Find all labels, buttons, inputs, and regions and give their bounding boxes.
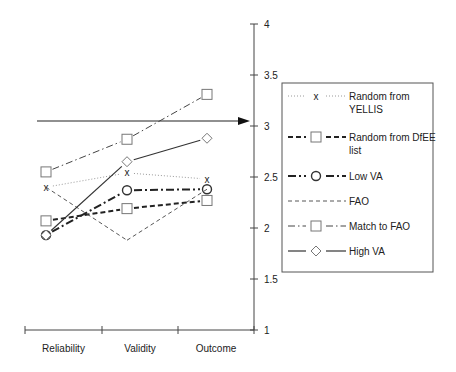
series-line-segment bbox=[52, 142, 120, 169]
data-point-square-icon bbox=[202, 89, 212, 99]
legend-label: list bbox=[349, 145, 361, 156]
legend-marker-square-icon bbox=[311, 221, 321, 231]
series-line-segment bbox=[134, 189, 200, 190]
series-line-segment bbox=[133, 98, 201, 136]
y-tick-label: 2 bbox=[264, 223, 270, 234]
legend-label: Random from bbox=[349, 91, 410, 102]
axes: 11.522.533.54ReliabilityValidityOutcome bbox=[25, 19, 278, 355]
legend-label: FAO bbox=[349, 196, 369, 207]
data-point-x-icon: x bbox=[125, 167, 130, 178]
legend-label: Match to FAO bbox=[349, 221, 410, 232]
x-category-label: Reliability bbox=[42, 343, 85, 354]
series-line-segment bbox=[134, 201, 200, 208]
y-tick-label: 1.5 bbox=[264, 274, 278, 285]
y-tick-label: 1 bbox=[264, 325, 270, 336]
legend: xRandom fromYELLISRandom from DfEElistLo… bbox=[282, 83, 436, 272]
data-point-diamond-icon bbox=[122, 157, 132, 167]
series-line-segment bbox=[127, 189, 207, 240]
legend-marker-square-icon bbox=[311, 132, 321, 142]
legend-label: High VA bbox=[349, 246, 385, 257]
series-line-segment bbox=[53, 210, 120, 220]
x-category-label: Outcome bbox=[196, 343, 237, 354]
data-point-square-icon bbox=[41, 167, 51, 177]
legend-label: Random from DfEE bbox=[349, 132, 436, 143]
series-random-from-dfee-list bbox=[41, 195, 212, 225]
data-point-square-icon bbox=[122, 134, 132, 144]
series-line-segment bbox=[134, 173, 200, 178]
y-tick-label: 2.5 bbox=[264, 172, 278, 183]
data-point-square-icon bbox=[122, 204, 132, 214]
x-category-label: Validity bbox=[124, 343, 156, 354]
data-point-x-icon: x bbox=[205, 174, 210, 185]
data-point-circle-icon bbox=[123, 186, 132, 195]
series-group: xxx bbox=[41, 89, 212, 240]
y-tick-label: 3 bbox=[264, 121, 270, 132]
y-tick-label: 4 bbox=[264, 19, 270, 30]
reference-arrow bbox=[37, 117, 250, 125]
line-chart: 11.522.533.54ReliabilityValidityOutcome … bbox=[0, 0, 456, 372]
legend-marker-x-icon: x bbox=[314, 91, 319, 102]
legend-label: YELLIS bbox=[349, 104, 383, 115]
series-line-segment bbox=[52, 194, 121, 232]
legend-marker-circle-icon bbox=[312, 172, 321, 181]
data-point-square-icon bbox=[41, 216, 51, 226]
y-tick-label: 3.5 bbox=[264, 70, 278, 81]
data-point-square-icon bbox=[202, 195, 212, 205]
legend-label: Low VA bbox=[349, 171, 383, 182]
series-line-segment bbox=[134, 140, 201, 160]
series-line-segment bbox=[53, 174, 120, 186]
data-point-diamond-icon bbox=[202, 133, 212, 143]
arrow-head-icon bbox=[238, 117, 250, 125]
